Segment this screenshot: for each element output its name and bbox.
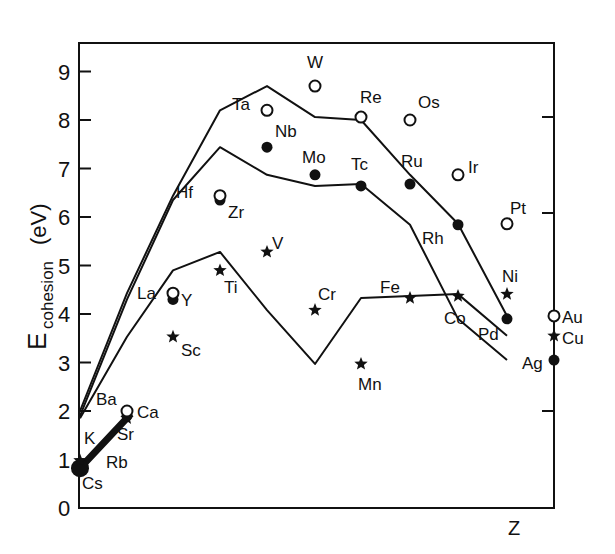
x-axis-title: Z: [508, 517, 520, 539]
point-label-ir: Ir: [468, 158, 479, 177]
y-tick-label: 0: [58, 496, 70, 521]
point-label-w: W: [307, 53, 323, 72]
y-axis-title: E cohesion (eV): [22, 203, 57, 350]
point-label-v: V: [272, 234, 284, 253]
point-label-cu: Cu: [562, 329, 584, 348]
point-label-zr: Zr: [228, 203, 244, 222]
star-marker: [500, 287, 513, 300]
point-label-tc: Tc: [351, 155, 369, 174]
open-circle-marker: [122, 406, 133, 417]
open-circle-marker: [310, 81, 321, 92]
point-label-ca: Ca: [137, 403, 159, 422]
y-tick-label: 8: [58, 108, 70, 133]
open-circle-marker: [502, 218, 513, 229]
y-tick-label: 3: [58, 351, 70, 376]
star-marker: [166, 330, 179, 343]
point-label-cs: Cs: [82, 474, 103, 493]
open-circle-marker: [168, 288, 179, 299]
point-label-sr: Sr: [117, 425, 134, 444]
series-line: [80, 252, 507, 418]
open-circle-marker: [215, 190, 226, 201]
y-tick-label: 7: [58, 157, 70, 182]
y-tick-label: 1: [58, 448, 70, 473]
open-circle-marker: [453, 169, 464, 180]
star-marker: [213, 263, 226, 276]
y-tick-label: 9: [58, 60, 70, 85]
star-marker: [308, 303, 321, 316]
point-label-co: Co: [444, 309, 466, 328]
point-label-hf: Hf: [176, 183, 193, 202]
point-label-mn: Mn: [358, 375, 382, 394]
point-label-au: Au: [562, 308, 583, 327]
point-label-la: La: [137, 284, 156, 303]
point-label-pt: Pt: [510, 199, 526, 218]
y-axis-title-subscript: cohesion: [38, 261, 57, 329]
point-label-y: Y: [181, 291, 192, 310]
y-axis-title-main: E: [22, 333, 52, 350]
filled-circle-marker: [453, 219, 464, 230]
y-tick-label: 4: [58, 302, 70, 327]
point-label-rh: Rh: [422, 229, 444, 248]
filled-circle-marker: [502, 313, 513, 324]
open-circle-marker: [549, 310, 560, 321]
y-tick-label: 5: [58, 254, 70, 279]
point-label-k: K: [84, 429, 96, 448]
point-label-ti: Ti: [224, 278, 238, 297]
point-label-os: Os: [418, 93, 440, 112]
star-marker: [403, 291, 416, 304]
star-marker: [451, 289, 464, 302]
y-axis-title-unit: (eV): [26, 203, 51, 245]
point-label-re: Re: [360, 88, 382, 107]
point-label-ru: Ru: [401, 152, 423, 171]
filled-circle-marker: [356, 180, 367, 191]
right-axis-ticks: [542, 117, 554, 411]
point-label-ag: Ag: [522, 354, 543, 373]
star-marker: [354, 357, 367, 370]
point-label-mo: Mo: [302, 148, 326, 167]
point-label-fe: Fe: [380, 278, 400, 297]
y-axis: 0123456789: [58, 60, 91, 522]
cohesion-energy-chart: 0123456789 KRbCsBaCaSrLaYScHfZrTiTaNbVWM…: [0, 0, 615, 554]
filled-circle-marker: [405, 179, 416, 190]
open-circle-marker: [356, 112, 367, 123]
point-label-rb: Rb: [106, 453, 128, 472]
point-label-ba: Ba: [96, 390, 117, 409]
series-line: [80, 147, 507, 416]
point-label-pd: Pd: [478, 325, 499, 344]
point-label-sc: Sc: [181, 341, 201, 360]
filled-circle-marker: [310, 169, 321, 180]
point-label-ni: Ni: [502, 267, 518, 286]
open-circle-marker: [262, 105, 273, 116]
point-label-ta: Ta: [232, 95, 251, 114]
y-tick-label: 6: [58, 205, 70, 230]
open-circle-marker: [405, 115, 416, 126]
filled-circle-marker: [262, 142, 273, 153]
plot-frame: [79, 43, 554, 508]
point-label-nb: Nb: [275, 122, 297, 141]
filled-circle-marker: [549, 355, 560, 366]
point-label-cr: Cr: [318, 285, 336, 304]
y-tick-label: 2: [58, 399, 70, 424]
